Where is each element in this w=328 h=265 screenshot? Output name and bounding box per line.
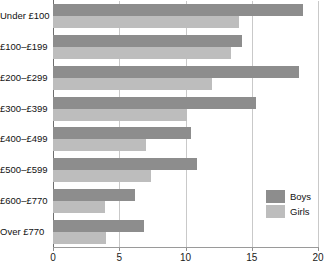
x-tick-label: 0 xyxy=(50,252,56,263)
y-axis-category-label: £300–£399 xyxy=(0,103,49,114)
x-tick-label: 15 xyxy=(246,252,257,263)
y-axis-category-label: £600–£770 xyxy=(0,195,49,206)
legend-label: Girls xyxy=(290,206,310,217)
bar-boys xyxy=(53,127,191,139)
legend-swatch-boys xyxy=(266,190,285,203)
bar-boys xyxy=(53,189,135,201)
bar-girls xyxy=(53,109,187,121)
legend-item: Boys xyxy=(266,189,326,204)
legend-item: Girls xyxy=(266,204,326,219)
y-axis-category-label: £400–£499 xyxy=(0,133,49,144)
bar-girls xyxy=(53,16,239,28)
x-tick-label: 5 xyxy=(116,252,122,263)
legend-swatch-girls xyxy=(266,205,285,218)
bar-boys xyxy=(53,158,197,170)
bar-girls xyxy=(53,232,106,244)
bar-chart: 05101520 Under £100£100–£199£200–£299£30… xyxy=(0,0,328,265)
bar-girls xyxy=(53,170,151,182)
y-axis-category-label: Over £770 xyxy=(0,226,49,237)
y-axis-category-label: £200–£299 xyxy=(0,72,49,83)
y-axis-category-label: Under £100 xyxy=(0,10,49,21)
bar-girls xyxy=(53,139,146,151)
x-tick-label: 10 xyxy=(180,252,191,263)
x-tick-label: 20 xyxy=(312,252,323,263)
bar-boys xyxy=(53,35,242,47)
x-axis-line xyxy=(53,247,319,248)
legend-label: Boys xyxy=(290,191,311,202)
bar-girls xyxy=(53,201,105,213)
bar-boys xyxy=(53,97,256,109)
bar-girls xyxy=(53,47,231,59)
bar-girls xyxy=(53,78,212,90)
y-axis-category-label: £500–£599 xyxy=(0,164,49,175)
bar-boys xyxy=(53,220,144,232)
legend: BoysGirls xyxy=(266,189,326,219)
bar-boys xyxy=(53,4,303,16)
bar-boys xyxy=(53,66,299,78)
y-axis-category-label: £100–£199 xyxy=(0,41,49,52)
